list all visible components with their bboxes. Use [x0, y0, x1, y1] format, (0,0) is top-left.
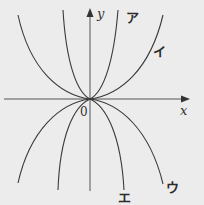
graph-canvas: y x 0 ア イ ウ エ [0, 0, 204, 205]
x-axis-arrow-icon [181, 96, 190, 103]
origin-label: 0 [80, 105, 88, 119]
curve-e-label: エ [118, 190, 131, 205]
curve-e [58, 99, 124, 190]
curve-a-label: ア [126, 10, 139, 25]
curve-i-label: イ [153, 44, 166, 59]
y-axis-arrow-icon [87, 8, 94, 17]
curve-u-label: ウ [166, 180, 179, 195]
x-axis-label: x [180, 103, 188, 118]
y-axis-label: y [96, 6, 105, 21]
